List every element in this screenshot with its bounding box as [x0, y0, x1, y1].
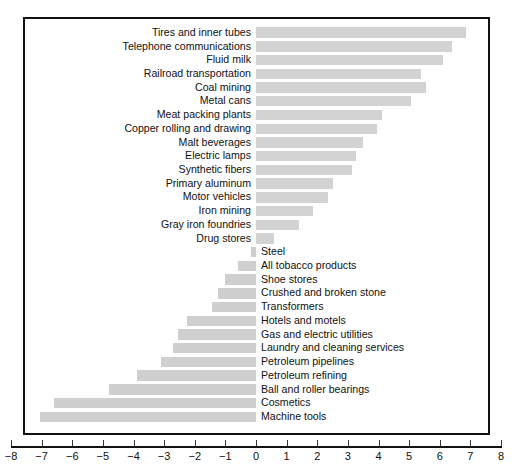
- category-label: Telephone communications: [0, 40, 251, 54]
- bar-row: Telephone communications: [0, 40, 512, 54]
- category-label: Drug stores: [0, 232, 251, 246]
- category-label: Gas and electric utilities: [261, 328, 373, 342]
- x-tick: [11, 440, 12, 446]
- bar-row: All tobacco products: [0, 259, 512, 273]
- x-tick: [42, 440, 43, 446]
- bar[interactable]: [256, 206, 313, 216]
- x-tick-label: 8: [486, 450, 512, 463]
- bar[interactable]: [187, 316, 256, 326]
- bar[interactable]: [256, 178, 333, 188]
- bar[interactable]: [218, 288, 256, 298]
- bar-row: Drug stores: [0, 232, 512, 246]
- category-label: Iron mining: [0, 204, 251, 218]
- bar[interactable]: [256, 233, 274, 243]
- x-tick-label: −8: [0, 450, 26, 463]
- bar[interactable]: [225, 274, 256, 284]
- x-axis-line: [11, 446, 502, 448]
- x-tick-label: 2: [302, 450, 332, 463]
- category-label: Petroleum pipelines: [261, 355, 354, 369]
- category-label: Meat packing plants: [0, 108, 251, 122]
- x-tick: [470, 440, 471, 446]
- bar-row: Gray iron foundries: [0, 218, 512, 232]
- category-label: Copper rolling and drawing: [0, 122, 251, 136]
- bar-row: Transformers: [0, 301, 512, 315]
- bar-row: Hotels and motels: [0, 314, 512, 328]
- bar-row: Steel: [0, 246, 512, 260]
- category-label: Synthetic fibers: [0, 163, 251, 177]
- category-label: Machine tools: [261, 410, 326, 424]
- x-tick-label: 4: [364, 450, 394, 463]
- x-tick-label: 7: [455, 450, 485, 463]
- bar-row: Machine tools: [0, 410, 512, 424]
- x-tick: [379, 440, 380, 446]
- category-label: Steel: [261, 245, 285, 259]
- x-tick: [409, 440, 410, 446]
- bar-row: Shoe stores: [0, 273, 512, 287]
- bar[interactable]: [256, 96, 411, 106]
- x-tick: [287, 440, 288, 446]
- category-label: Laundry and cleaning services: [261, 341, 404, 355]
- x-tick-label: −3: [149, 450, 179, 463]
- x-tick: [348, 440, 349, 446]
- category-label: Motor vehicles: [0, 190, 251, 204]
- bar-row: Electric lamps: [0, 150, 512, 164]
- bar[interactable]: [178, 329, 256, 339]
- bar-row: Gas and electric utilities: [0, 328, 512, 342]
- bar[interactable]: [40, 412, 256, 422]
- category-label: Ball and roller bearings: [261, 383, 369, 397]
- category-label: Coal mining: [0, 81, 251, 95]
- bar[interactable]: [256, 151, 356, 161]
- bar[interactable]: [161, 357, 256, 367]
- x-tick-label: −7: [27, 450, 57, 463]
- bar-row: Ball and roller bearings: [0, 383, 512, 397]
- bar[interactable]: [256, 165, 352, 175]
- category-label: Tires and inner tubes: [0, 26, 251, 40]
- bar-row: Meat packing plants: [0, 109, 512, 123]
- bar-row: Metal cans: [0, 95, 512, 109]
- category-label: Malt beverages: [0, 136, 251, 150]
- x-tick: [256, 440, 257, 446]
- bar[interactable]: [256, 55, 443, 65]
- x-tick: [225, 440, 226, 446]
- bar-row: Iron mining: [0, 205, 512, 219]
- x-tick-label: −1: [210, 450, 240, 463]
- bar[interactable]: [256, 192, 328, 202]
- bar-row: Tires and inner tubes: [0, 26, 512, 40]
- bar[interactable]: [256, 27, 466, 37]
- category-label: Cosmetics: [261, 396, 310, 410]
- bar[interactable]: [256, 69, 421, 79]
- bar[interactable]: [256, 124, 377, 134]
- bar[interactable]: [212, 302, 256, 312]
- bar-row: Cosmetics: [0, 397, 512, 411]
- category-label: Shoe stores: [261, 273, 318, 287]
- x-tick: [164, 440, 165, 446]
- category-label: Electric lamps: [0, 149, 251, 163]
- x-tick-label: 3: [333, 450, 363, 463]
- x-tick: [195, 440, 196, 446]
- x-tick: [72, 440, 73, 446]
- category-label: Metal cans: [0, 94, 251, 108]
- x-tick-label: 6: [425, 450, 455, 463]
- category-label: Transformers: [261, 300, 324, 314]
- bar-row: Primary aluminum: [0, 177, 512, 191]
- bar[interactable]: [256, 220, 299, 230]
- bar[interactable]: [109, 384, 256, 394]
- x-tick: [440, 440, 441, 446]
- bar[interactable]: [238, 261, 256, 271]
- category-label: Gray iron foundries: [0, 218, 251, 232]
- x-tick: [317, 440, 318, 446]
- bar[interactable]: [173, 343, 256, 353]
- bar[interactable]: [251, 247, 256, 257]
- bar[interactable]: [256, 41, 452, 51]
- bar[interactable]: [137, 370, 256, 380]
- bar[interactable]: [256, 137, 363, 147]
- bar-chart-figure: Tires and inner tubesTelephone communica…: [0, 0, 512, 475]
- bar-row: Railroad transportation: [0, 67, 512, 81]
- bar[interactable]: [54, 398, 256, 408]
- bar-row: Petroleum refining: [0, 369, 512, 383]
- bar-row: Petroleum pipelines: [0, 355, 512, 369]
- x-tick-label: −4: [119, 450, 149, 463]
- bar[interactable]: [256, 110, 382, 120]
- category-label: Primary aluminum: [0, 177, 251, 191]
- bar[interactable]: [256, 82, 426, 92]
